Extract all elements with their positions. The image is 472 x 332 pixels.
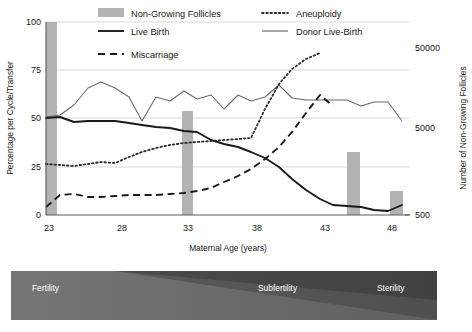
x-axis-title: Maternal Age (years) bbox=[189, 243, 267, 253]
band-label-sterility: Sterility bbox=[377, 283, 405, 293]
y2-tick-5000: 5000 bbox=[415, 123, 435, 133]
y-tick-100: 100 bbox=[26, 17, 41, 27]
x-tick-23: 23 bbox=[44, 223, 54, 233]
legend-label-live-birth: Live Birth bbox=[131, 27, 169, 37]
y2-tick-500: 500 bbox=[415, 210, 430, 220]
x-tick-43: 43 bbox=[320, 223, 330, 233]
y-tick-50: 50 bbox=[31, 113, 41, 123]
legend-swatch-non-growing-follicles bbox=[98, 8, 124, 17]
y-tick-75: 75 bbox=[31, 65, 41, 75]
chart-figure: 100 75 50 25 0 Percentage per Cycle/Tran… bbox=[0, 0, 472, 332]
band-label-subfertility: Subfertility bbox=[258, 283, 298, 293]
bar-33 bbox=[182, 111, 193, 215]
legend-label-donor-live-birth: Donor Live-Birth bbox=[296, 27, 362, 37]
x-tick-48: 48 bbox=[387, 223, 397, 233]
fertility-status-band: Fertility Subfertility Sterility bbox=[11, 271, 437, 320]
legend-label-non-growing-follicles: Non-Growing Follicles bbox=[131, 9, 221, 19]
y-tick-25: 25 bbox=[31, 162, 41, 172]
band-label-fertility: Fertility bbox=[32, 283, 60, 293]
x-tick-28: 28 bbox=[117, 223, 127, 233]
y-axis-title: Percentage per Cycle/Transfer bbox=[5, 61, 15, 175]
y-tick-0: 0 bbox=[36, 210, 41, 220]
legend-label-miscarriage: Miscarriage bbox=[131, 50, 178, 60]
y2-tick-50000: 50000 bbox=[415, 43, 440, 53]
x-tick-38: 38 bbox=[252, 223, 262, 233]
legend-label-aneuploidy: Aneuploidy bbox=[296, 9, 342, 19]
x-tick-33: 33 bbox=[183, 223, 193, 233]
bar-48 bbox=[390, 191, 403, 215]
chart-svg: 100 75 50 25 0 Percentage per Cycle/Tran… bbox=[0, 0, 472, 332]
y2-axis-title: Number of Non-Growing Follicles bbox=[458, 66, 468, 189]
